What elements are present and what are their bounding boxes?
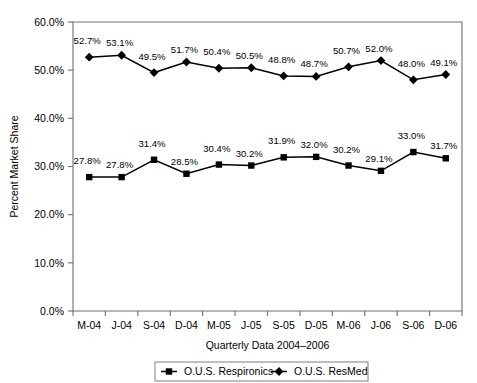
data-label: 30.2% xyxy=(236,148,264,159)
y-tick-label: 60.0% xyxy=(34,16,64,28)
data-label: 33.0% xyxy=(398,130,426,141)
data-label: 27.8% xyxy=(106,159,134,170)
data-point-marker xyxy=(151,157,157,163)
data-point-marker xyxy=(409,75,418,84)
legend-marker-square xyxy=(166,368,172,374)
data-point-marker xyxy=(378,168,384,174)
data-point-marker xyxy=(279,72,288,81)
y-tick-label: 30.0% xyxy=(34,160,64,172)
data-label: 51.7% xyxy=(171,44,199,55)
x-tick-label: S-04 xyxy=(143,319,165,331)
market-share-line-chart: 0.0%10.0%20.0%30.0%40.0%50.0%60.0%Percen… xyxy=(0,0,477,383)
chart-canvas: 0.0%10.0%20.0%30.0%40.0%50.0%60.0%Percen… xyxy=(0,0,477,383)
legend-label-respironics: O.U.S. Respironics xyxy=(184,365,273,377)
data-label: 29.1% xyxy=(365,153,393,164)
data-point-marker xyxy=(410,149,416,155)
data-label: 48.8% xyxy=(268,54,296,65)
data-label: 32.0% xyxy=(301,139,329,150)
data-label: 52.0% xyxy=(365,43,393,54)
data-label: 28.5% xyxy=(171,156,199,167)
data-point-marker xyxy=(345,162,351,168)
data-label: 50.7% xyxy=(333,45,361,56)
data-point-marker xyxy=(312,72,321,81)
data-point-marker xyxy=(214,64,223,73)
data-label: 52.7% xyxy=(74,35,102,46)
data-point-marker xyxy=(117,51,126,60)
data-label: 49.1% xyxy=(430,57,458,68)
data-label: 31.7% xyxy=(430,140,458,151)
data-label: 30.2% xyxy=(333,144,361,155)
data-label: 30.4% xyxy=(203,143,231,154)
x-tick-label: D-06 xyxy=(434,319,457,331)
data-point-marker xyxy=(118,174,124,180)
data-label: 48.0% xyxy=(398,58,426,69)
y-tick-label: 50.0% xyxy=(34,64,64,76)
data-label: 50.5% xyxy=(236,50,264,61)
x-tick-label: J-04 xyxy=(111,319,132,331)
data-point-marker xyxy=(441,70,450,79)
data-point-marker xyxy=(248,162,254,168)
data-label: 31.9% xyxy=(268,135,296,146)
data-point-marker xyxy=(216,161,222,167)
data-label: 31.4% xyxy=(138,138,166,149)
data-label: 53.1% xyxy=(106,37,134,48)
data-point-marker xyxy=(85,53,94,62)
y-tick-label: 0.0% xyxy=(40,305,64,317)
data-point-marker xyxy=(377,56,386,65)
data-point-marker xyxy=(183,171,189,177)
x-tick-label: S-05 xyxy=(273,319,295,331)
x-tick-label: J-05 xyxy=(241,319,262,331)
data-point-marker xyxy=(344,62,353,71)
x-axis-title: Quarterly Data 2004–2006 xyxy=(206,339,330,351)
data-label: 50.4% xyxy=(203,46,231,57)
data-point-marker xyxy=(247,63,256,72)
x-tick-label: M-04 xyxy=(77,319,101,331)
data-point-marker xyxy=(313,154,319,160)
y-tick-label: 20.0% xyxy=(34,208,64,220)
legend-label-resmed: O.U.S. ResMed xyxy=(294,365,368,377)
x-tick-label: S-06 xyxy=(402,319,424,331)
data-point-marker xyxy=(281,154,287,160)
data-point-marker xyxy=(182,58,191,67)
x-tick-label: M-06 xyxy=(337,319,361,331)
y-axis-title: Percent Market Share xyxy=(8,115,20,217)
y-tick-label: 40.0% xyxy=(34,112,64,124)
data-label: 27.8% xyxy=(74,155,102,166)
data-point-marker xyxy=(443,155,449,161)
data-label: 48.7% xyxy=(301,58,329,69)
data-point-marker xyxy=(150,68,159,77)
data-point-marker xyxy=(86,174,92,180)
x-tick-label: D-04 xyxy=(175,319,198,331)
x-tick-label: D-05 xyxy=(305,319,328,331)
x-tick-label: J-06 xyxy=(371,319,392,331)
data-label: 49.5% xyxy=(138,51,166,62)
x-tick-label: M-05 xyxy=(207,319,231,331)
y-tick-label: 10.0% xyxy=(34,257,64,269)
